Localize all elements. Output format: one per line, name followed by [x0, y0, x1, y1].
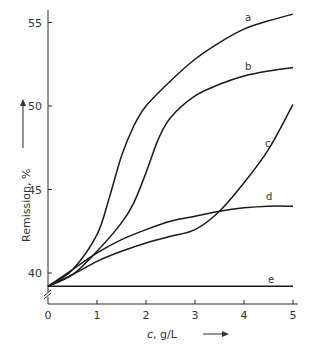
curve-a	[48, 14, 293, 286]
labels: 40455055012345c, g/LRemission, %abcde	[20, 12, 297, 341]
curve-c	[48, 104, 293, 286]
y-tick-label: 55	[28, 17, 42, 30]
curves	[48, 14, 293, 286]
x-tick-label: 1	[94, 309, 101, 322]
y-axis-title: Remission, %	[20, 169, 33, 242]
x-tick-label: 2	[143, 309, 150, 322]
series-label-c: c	[265, 138, 271, 149]
series-label-e: e	[268, 274, 274, 285]
x-tick-label: 4	[241, 309, 248, 322]
y-axis-arrowhead	[20, 99, 26, 106]
x-tick-label: 5	[290, 309, 297, 322]
x-axis-title: c, g/L	[147, 328, 178, 341]
remission-chart: 40455055012345c, g/LRemission, %abcde	[0, 0, 316, 347]
curve-d	[48, 206, 293, 286]
x-tick-label: 3	[192, 309, 199, 322]
series-label-d: d	[266, 191, 272, 202]
axes	[44, 10, 298, 304]
series-label-b: b	[245, 61, 251, 72]
x-axis-arrowhead	[222, 331, 229, 337]
y-tick-label: 40	[28, 267, 42, 280]
x-tick-label: 0	[45, 309, 52, 322]
series-label-a: a	[245, 12, 251, 23]
y-tick-label: 50	[28, 100, 42, 113]
